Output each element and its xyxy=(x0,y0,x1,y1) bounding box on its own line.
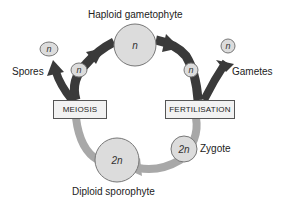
meiosis-box: MEIOSIS xyxy=(53,100,107,119)
gametes-label: Gametes xyxy=(232,66,273,77)
haploid-gametophyte-label: Haploid gametophyte xyxy=(88,9,183,20)
sporophyte-ploidy: 2n xyxy=(105,151,129,169)
fertilisation-box: FERTILISATION xyxy=(165,100,235,119)
life-cycle-diagram xyxy=(0,0,282,206)
zygote-label: Zygote xyxy=(200,143,231,154)
spore-free-ploidy: n xyxy=(41,42,57,56)
zygote-ploidy: 2n xyxy=(174,141,194,157)
gamete-arc-ploidy: n xyxy=(183,63,199,77)
diploid-sporophyte-label: Diploid sporophyte xyxy=(72,186,155,197)
spores-label: Spores xyxy=(12,66,44,77)
spore-arc-ploidy: n xyxy=(71,63,87,77)
gametophyte-ploidy: n xyxy=(125,36,145,54)
gamete-free-ploidy: n xyxy=(220,39,236,53)
